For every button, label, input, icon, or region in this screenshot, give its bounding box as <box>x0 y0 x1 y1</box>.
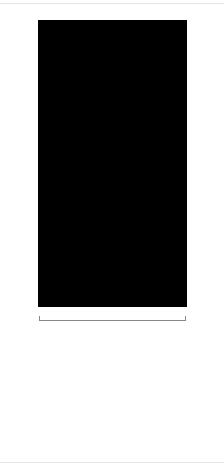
bottom-border <box>0 462 224 463</box>
knitting-chart-grid <box>38 20 187 307</box>
top-border <box>0 3 224 4</box>
repeat-bracket <box>39 316 186 321</box>
